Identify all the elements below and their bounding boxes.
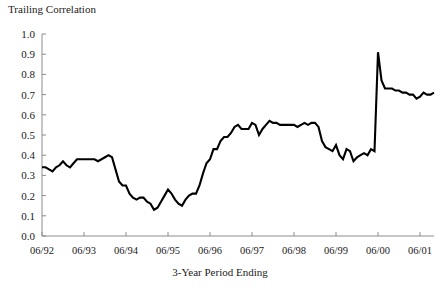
y-axis-tick-label: 0.5 [21,129,35,141]
x-axis-tick-label: 06/98 [282,245,306,256]
x-axis-tick-label: 06/01 [408,245,432,256]
y-axis-tick-label: 1.0 [21,28,35,40]
chart-plot-area: 1.00.90.80.70.60.50.40.30.20.10.0 06/920… [0,0,440,291]
x-axis-tick-label: 06/96 [198,245,222,256]
y-axis-tick-label: 0.0 [21,230,35,242]
data-series-group [42,52,434,210]
trailing-correlation-chart: Trailing Correlation 1.00.90.80.70.60.50… [0,0,440,291]
data-series-line [42,52,434,210]
y-axis-tick-label: 0.2 [21,190,35,202]
x-axis-tick-label: 06/97 [240,245,264,256]
x-axis-tick-label: 06/95 [156,245,180,256]
x-axis-tick-label: 06/94 [114,245,139,256]
x-axis-tick-label: 06/92 [30,245,54,256]
x-axis-tick-label: 06/93 [72,245,96,256]
y-axis-tick-label: 0.6 [21,109,35,121]
x-axis-tick-label: 06/99 [324,245,348,256]
x-axis-title: 3-Year Period Ending [0,266,440,278]
y-axis-tick-label: 0.4 [21,149,35,161]
x-axis-tick-label: 06/00 [366,245,390,256]
y-axis-tick-label: 0.1 [21,210,35,222]
y-axis-tick-label: 0.8 [21,68,35,80]
x-axis-tick-labels: 06/9206/9306/9406/9506/9606/9706/9806/99… [30,245,432,256]
y-axis-tick-label: 0.7 [21,89,35,101]
y-axis-tick-label: 0.3 [21,169,35,181]
y-axis-tick-labels: 1.00.90.80.70.60.50.40.30.20.10.0 [21,28,35,242]
y-axis-tick-label: 0.9 [21,48,35,60]
